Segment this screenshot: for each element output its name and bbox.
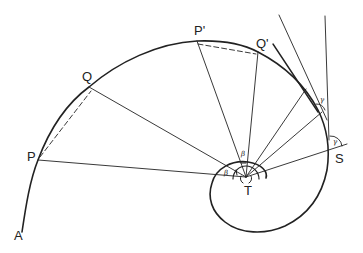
- tangent-1: [273, 44, 318, 112]
- radius-tp: [38, 160, 246, 177]
- chord-p-prime-q-prime: [198, 44, 256, 54]
- label-p-prime: P': [194, 24, 205, 37]
- label-q: Q: [82, 70, 92, 83]
- label-a: A: [14, 229, 23, 242]
- label-gamma-2: γ: [333, 139, 337, 146]
- angle-mark-beta-1: [236, 170, 237, 175]
- spiral-diagram: A P Q P' Q' S T β β γ γ: [0, 0, 363, 253]
- label-beta-1: β: [224, 170, 228, 177]
- angle-arc-t-right: [249, 176, 252, 183]
- chord-pq: [40, 91, 91, 157]
- label-s: S: [335, 152, 344, 165]
- tangent-3: [325, 16, 329, 140]
- label-p: P: [27, 150, 36, 163]
- label-t: T: [244, 184, 252, 197]
- label-beta-2: β: [241, 151, 245, 158]
- radius-tp-prime: [197, 41, 246, 177]
- radius-tq-prime: [246, 52, 258, 177]
- radius-tq: [89, 87, 246, 177]
- label-q-prime: Q': [256, 37, 269, 50]
- spiral-figure: [0, 0, 363, 253]
- label-gamma-1: γ: [320, 97, 324, 104]
- radius-ts: [246, 144, 347, 177]
